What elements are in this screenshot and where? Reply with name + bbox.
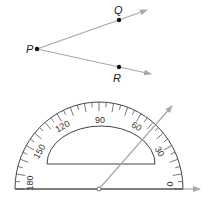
protractor: 180 150 120 90 60 30 0 [15, 102, 200, 191]
tick-mark [51, 118, 54, 122]
tick-mark [112, 103, 114, 112]
tick-mark [173, 174, 182, 176]
tick-mark [57, 114, 62, 122]
tick-mark [84, 103, 86, 112]
ray-pr [37, 49, 151, 74]
tick-mark [144, 118, 147, 122]
tick-mark [70, 107, 73, 116]
tick-mark [157, 133, 164, 139]
angle-qpr: P Q R [26, 4, 151, 84]
scale-label-120: 120 [53, 118, 71, 134]
point-p [35, 47, 39, 51]
tick-mark [125, 107, 128, 116]
tick-mark [15, 181, 20, 182]
tick-mark [23, 152, 28, 154]
label-r: R [113, 72, 121, 84]
scale-label-30: 30 [153, 145, 167, 159]
tick-mark [16, 174, 25, 176]
tick-mark [171, 152, 176, 154]
scale-label-150: 150 [31, 142, 47, 160]
scale-label-180: 180 [25, 175, 35, 190]
tick-mark [18, 167, 23, 168]
scale-label-0: 0 [165, 181, 175, 186]
tick-mark [132, 110, 134, 115]
label-p: P [26, 43, 34, 55]
tick-mark [119, 105, 120, 110]
label-q: Q [114, 4, 123, 16]
diagram-canvas: P Q R 180 150 120 90 60 30 0 [0, 0, 211, 198]
tick-mark [77, 105, 78, 110]
scale-label-60: 60 [130, 120, 144, 134]
tick-mark [40, 128, 44, 132]
tick-mark [170, 159, 178, 162]
tick-mark [164, 139, 168, 142]
protractor-center-mark [97, 187, 101, 191]
point-q [117, 18, 121, 22]
tick-mark [30, 139, 34, 142]
point-r [117, 65, 121, 69]
tick-mark [155, 128, 159, 132]
tick-mark [35, 133, 42, 139]
scale-label-90: 90 [95, 115, 105, 125]
tick-mark [45, 122, 51, 129]
tick-mark [26, 146, 34, 151]
tick-mark [64, 110, 66, 115]
tick-mark [20, 159, 28, 162]
tick-mark [178, 181, 183, 182]
ray-pq [37, 10, 147, 49]
tick-mark [175, 167, 180, 168]
